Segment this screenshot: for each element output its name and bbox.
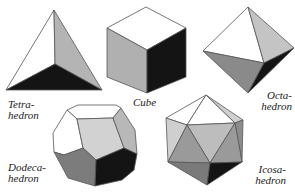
dodecahedron-figure [53, 105, 137, 186]
dodecahedron-label-line2: hedron [8, 173, 46, 184]
icosahedron-label-line2: hedron [246, 175, 286, 186]
octahedron-label: Octa- hedron [252, 90, 292, 112]
octahedron-figure [203, 7, 294, 93]
octahedron-label-line2: hedron [252, 101, 292, 112]
icosahedron-label: Icosa- hedron [246, 164, 286, 186]
cube-figure [107, 7, 186, 93]
dodecahedron-label: Dodeca- hedron [8, 162, 46, 184]
tetrahedron-label: Tetra- hedron [8, 99, 39, 121]
tetrahedron-label-line2: hedron [8, 110, 39, 121]
cube-label: Cube [133, 97, 156, 108]
tetrahedron-figure [6, 10, 102, 90]
icosahedron-figure [166, 95, 243, 185]
cube-label-line1: Cube [133, 97, 156, 108]
